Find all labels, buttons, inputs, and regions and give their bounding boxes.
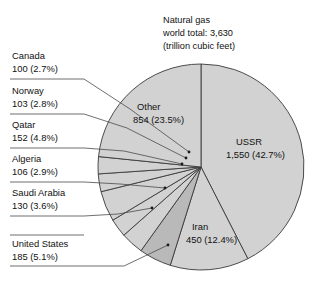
slice-label-iran-amount: 450 (12.4%) <box>186 234 237 245</box>
callout-label-norway-name: Norway <box>12 85 44 96</box>
chart-title: Natural gas world total: 3,630 (trillion… <box>162 15 235 51</box>
callout-label-saudi-arabia-name: Saudi Arabia <box>12 187 66 198</box>
slice-label-other-amount: 854 (23.5%) <box>133 114 184 125</box>
callout-label-qatar-name: Qatar <box>12 119 35 130</box>
chart-title-line-1: Natural gas <box>163 15 210 25</box>
leader-dot-algeria <box>164 187 167 190</box>
callout-label-united-states-name: United States <box>12 238 69 249</box>
callout-label-saudi-arabia-amount: 130 (3.6%) <box>12 200 58 211</box>
callout-label-qatar-amount: 152 (4.8%) <box>12 132 58 143</box>
callout-label-algeria-name: Algeria <box>12 153 42 164</box>
chart-title-line-3: (trillion cubic feet) <box>163 41 235 51</box>
callout-labels: Canada 100 (2.7%) Norway 103 (2.8%) Qata… <box>12 50 69 262</box>
leader-dot-qatar <box>181 163 184 166</box>
slice-label-ussr-amount: 1,550 (42.7%) <box>226 149 285 160</box>
leader-dot-united-states <box>167 244 170 247</box>
callout-label-norway-amount: 103 (2.8%) <box>12 98 58 109</box>
leader-dot-canada <box>188 151 191 154</box>
leader-dot-norway <box>185 157 188 160</box>
slice-label-ussr-name: USSR <box>236 136 262 147</box>
pie-chart-svg: Natural gas world total: 3,630 (trillion… <box>0 0 320 285</box>
callout-label-united-states-amount: 185 (5.1%) <box>12 251 58 262</box>
callout-label-algeria-amount: 106 (2.9%) <box>12 166 58 177</box>
leader-dot-saudi-arabia <box>151 207 154 210</box>
chart-title-line-2: world total: 3,630 <box>162 28 233 38</box>
slice-label-other-name: Other <box>137 101 160 112</box>
slice-label-iran-name: Iran <box>192 221 208 232</box>
callout-label-canada-amount: 100 (2.7%) <box>12 63 58 74</box>
callout-label-canada-name: Canada <box>12 50 46 61</box>
pie-chart-figure: Natural gas world total: 3,630 (trillion… <box>0 0 320 285</box>
